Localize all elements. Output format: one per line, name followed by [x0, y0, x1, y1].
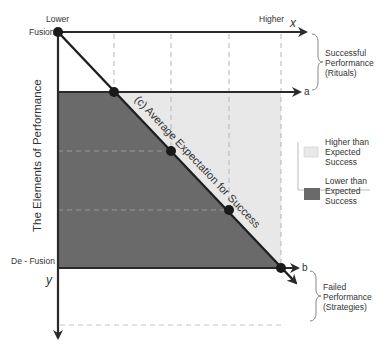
- x-end-label: Higher: [259, 14, 284, 24]
- successful-brace: [312, 34, 323, 90]
- successful-performance-label: Successful Performance (Rituals): [325, 48, 376, 78]
- defusion-label: De - Fusion: [11, 256, 55, 266]
- legend-label-lower: Lower than Expected Success: [325, 176, 369, 206]
- line-b-label: b: [302, 262, 308, 273]
- y-axis-title: The Elements of Performance: [31, 79, 43, 232]
- dot-2: [166, 146, 176, 156]
- legend-lower: Lower than Expected Success: [304, 176, 369, 206]
- legend-label-higher: Higher than Expected Success: [325, 137, 371, 167]
- performance-diagram: (c) Average Expectation for Success Lowe…: [0, 0, 386, 351]
- legend-swatch-lower-visible: [304, 188, 320, 200]
- y-axis-label: y: [45, 273, 53, 287]
- failed-brace: [310, 271, 321, 321]
- failed-performance-label: Failed Performance (Strategies): [323, 282, 374, 312]
- fusion-label: Fusion: [29, 27, 55, 37]
- dot-4: [276, 263, 286, 273]
- legend-swatch-higher: [304, 147, 318, 157]
- dot-1: [109, 87, 119, 97]
- x-start-label: Lower: [46, 14, 69, 24]
- x-axis-label: x: [289, 16, 297, 30]
- line-a-label: a: [304, 86, 310, 97]
